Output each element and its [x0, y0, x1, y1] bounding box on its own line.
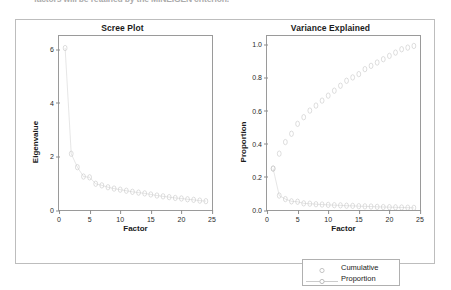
series-line-proportion [273, 169, 414, 208]
data-point-cumulative [412, 43, 416, 48]
data-point-cumulative [332, 88, 336, 93]
x-tick-label: 10 [116, 216, 124, 223]
data-point-cumulative [296, 121, 300, 126]
scree-plot-series-layer [59, 36, 212, 210]
y-tick-label: 0 [50, 207, 59, 214]
x-tick-label: 0 [57, 216, 61, 223]
scree-plot: Scree Plot Eigenvalue 02460510152025 Fac… [20, 20, 225, 263]
y-tick-label: 6 [50, 46, 59, 53]
data-point-cumulative [326, 93, 330, 98]
data-point-cumulative [290, 131, 294, 136]
scree-plot-axes: 02460510152025 [58, 35, 213, 211]
figure-panel: Scree Plot Eigenvalue 02460510152025 Fac… [15, 19, 435, 264]
x-tick-label: 20 [385, 216, 393, 223]
x-tick-label: 25 [416, 216, 424, 223]
data-point-cumulative [394, 50, 398, 55]
data-point-cumulative [351, 75, 355, 80]
x-tick-label: 5 [296, 216, 300, 223]
x-tick-label: 0 [265, 216, 269, 223]
data-point-proportion [271, 166, 275, 171]
data-point-cumulative [369, 63, 373, 68]
variance-plot-axes: 0.00.20.40.60.81.00510152025 [266, 35, 421, 211]
data-point-cumulative [357, 71, 361, 76]
data-point-cumulative [308, 108, 312, 113]
x-tick-label: 20 [177, 216, 185, 223]
data-point-cumulative [363, 66, 367, 71]
data-point-cumulative [277, 151, 281, 156]
variance-plot-x-axis-label: Factor [266, 224, 421, 233]
variance-explained-plot: Variance Explained Proportion 0.00.20.40… [228, 20, 433, 263]
legend-item-cumulative: Cumulative [303, 262, 399, 273]
y-tick-label: 4 [50, 99, 59, 106]
variance-plot-title: Variance Explained [228, 23, 433, 33]
scree-plot-x-axis-label: Factor [58, 224, 213, 233]
data-point-cumulative [283, 139, 287, 144]
data-point-cumulative [314, 103, 318, 108]
data-point-cumulative [339, 83, 343, 88]
data-point-cumulative [406, 45, 410, 50]
data-point-cumulative [387, 53, 391, 58]
y-tick-label: 0.0 [252, 207, 267, 214]
variance-plot-y-axis-label: Proportion [239, 121, 248, 162]
scanned-caption-text: factors will be retained by the MINEIGEN… [34, 0, 334, 6]
data-point-cumulative [375, 60, 379, 65]
x-tick-label: 15 [355, 216, 363, 223]
legend-label-cumulative: Cumulative [341, 263, 379, 272]
x-tick-label: 25 [208, 216, 216, 223]
y-tick-label: 0.6 [252, 107, 267, 114]
data-point-cumulative [320, 98, 324, 103]
variance-plot-series-layer [267, 36, 420, 210]
y-tick-label: 0.4 [252, 140, 267, 147]
legend-marker-cumulative-icon [303, 262, 341, 273]
y-tick-label: 0.8 [252, 74, 267, 81]
data-point-cumulative [400, 47, 404, 52]
x-tick-label: 15 [147, 216, 155, 223]
y-tick-label: 2 [50, 153, 59, 160]
plot-legend: Cumulative Proportion [302, 259, 400, 286]
y-tick-label: 1.0 [252, 41, 267, 48]
scree-plot-y-axis-label: Eigenvalue [31, 120, 40, 162]
y-tick-label: 0.2 [252, 173, 267, 180]
data-point-cumulative [302, 115, 306, 120]
legend-label-proportion: Proportion [341, 274, 376, 283]
data-point-proportion [412, 205, 416, 210]
legend-marker-proportion-icon [303, 273, 341, 284]
series-line-eigenvalue [65, 48, 206, 201]
x-tick-label: 5 [88, 216, 92, 223]
data-point-cumulative [345, 78, 349, 83]
data-point-cumulative [381, 57, 385, 62]
scree-plot-title: Scree Plot [20, 23, 225, 33]
legend-item-proportion: Proportion [303, 273, 399, 284]
x-tick-label: 10 [324, 216, 332, 223]
